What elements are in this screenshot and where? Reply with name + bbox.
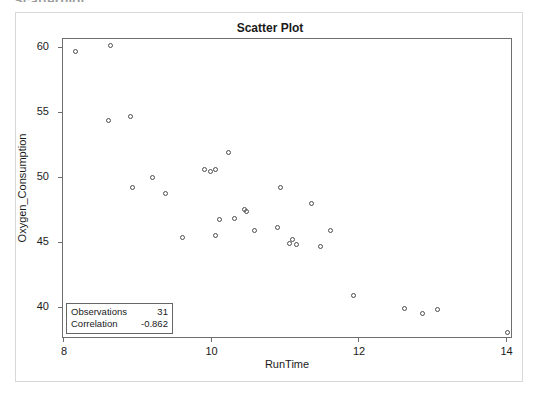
truncated-page-heading: Scatterplot bbox=[14, 0, 85, 2]
data-point bbox=[213, 233, 218, 238]
data-point bbox=[128, 114, 133, 119]
plot-area: 4045505560 8101214 bbox=[62, 38, 512, 338]
data-point bbox=[73, 49, 78, 54]
data-point bbox=[232, 216, 237, 221]
y-tick-label-50: 50 bbox=[37, 170, 49, 182]
x-tick-label-8: 8 bbox=[61, 345, 67, 357]
data-point bbox=[402, 306, 407, 311]
data-point bbox=[130, 185, 135, 190]
data-point bbox=[202, 167, 207, 172]
data-point bbox=[106, 118, 111, 123]
data-point bbox=[275, 225, 280, 230]
x-tick-label-12: 12 bbox=[353, 345, 365, 357]
data-point bbox=[318, 244, 323, 249]
correlation-value: -0.862 bbox=[141, 318, 168, 330]
data-point bbox=[226, 150, 231, 155]
data-point bbox=[252, 228, 257, 233]
x-tick-10: 10 bbox=[211, 337, 212, 342]
y-tick-label-55: 55 bbox=[37, 105, 49, 117]
data-point bbox=[163, 191, 168, 196]
y-tick-55: 55 bbox=[58, 112, 63, 113]
data-point bbox=[208, 169, 213, 174]
x-tick-14: 14 bbox=[506, 337, 507, 342]
y-tick-label-60: 60 bbox=[37, 40, 49, 52]
data-point bbox=[278, 185, 283, 190]
y-tick-60: 60 bbox=[58, 47, 63, 48]
data-point bbox=[108, 43, 113, 48]
data-point bbox=[420, 311, 425, 316]
statistics-inset: Observations 31 Correlation -0.862 bbox=[66, 303, 173, 334]
data-point bbox=[435, 307, 440, 312]
data-point bbox=[309, 201, 314, 206]
x-tick-label-14: 14 bbox=[500, 345, 512, 357]
y-tick-label-45: 45 bbox=[37, 235, 49, 247]
observations-label: Observations bbox=[71, 306, 141, 318]
observations-value: 31 bbox=[141, 306, 168, 318]
chart-title: Scatter Plot bbox=[16, 21, 524, 35]
data-point bbox=[351, 293, 356, 298]
x-tick-8: 8 bbox=[63, 337, 64, 342]
y-tick-45: 45 bbox=[58, 242, 63, 243]
y-tick-label-40: 40 bbox=[37, 300, 49, 312]
data-point bbox=[294, 242, 299, 247]
y-tick-50: 50 bbox=[58, 177, 63, 178]
x-tick-12: 12 bbox=[358, 337, 359, 342]
data-point bbox=[213, 167, 218, 172]
observations-row: Observations 31 bbox=[71, 306, 168, 318]
correlation-label: Correlation bbox=[71, 318, 141, 330]
data-point bbox=[505, 330, 510, 335]
y-tick-40: 40 bbox=[58, 307, 63, 308]
y-axis-title: Oxygen_Consumption bbox=[16, 134, 28, 243]
data-point bbox=[150, 175, 155, 180]
correlation-row: Correlation -0.862 bbox=[71, 318, 168, 330]
data-point bbox=[180, 235, 185, 240]
data-point bbox=[244, 209, 249, 214]
data-point bbox=[328, 228, 333, 233]
data-point bbox=[217, 217, 222, 222]
x-tick-label-10: 10 bbox=[205, 345, 217, 357]
x-axis-title: RunTime bbox=[265, 358, 309, 370]
